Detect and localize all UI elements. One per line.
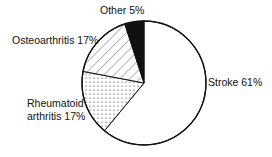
label-stroke: Stroke 61% — [208, 76, 262, 88]
label-osteoarthritis: Osteoarthritis 17% — [12, 34, 98, 46]
label-other: Other 5% — [100, 4, 144, 16]
label-rheumatoid-line1: Rheumatoid — [27, 97, 84, 109]
label-rheumatoid-line2: arthritis 17% — [27, 110, 85, 122]
